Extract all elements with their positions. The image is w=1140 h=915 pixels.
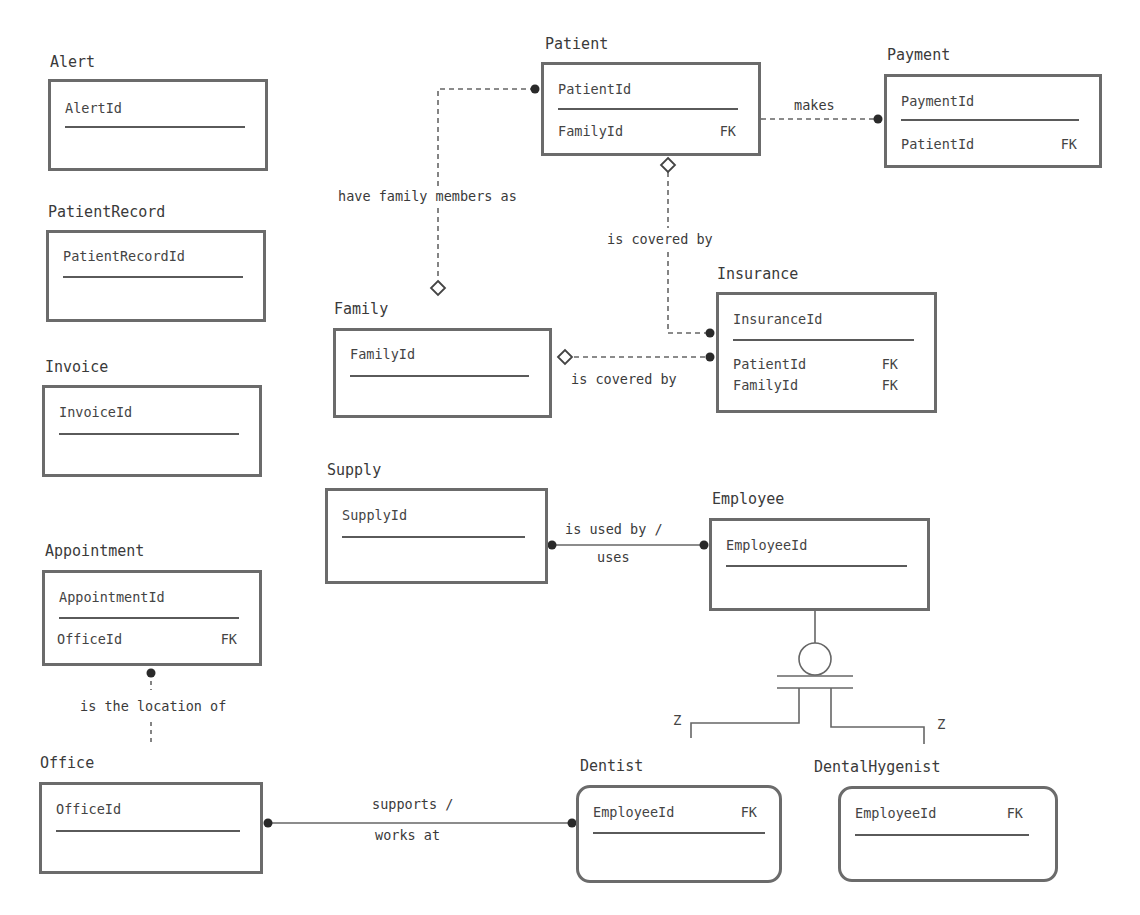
dot-insurance-family xyxy=(706,353,715,362)
pk-divider xyxy=(733,339,914,341)
pk-name: PatientRecordId xyxy=(63,248,185,264)
pk-divider xyxy=(350,375,529,377)
entity-office[interactable]: OfficeId xyxy=(39,782,263,874)
pk-name: EmployeeId xyxy=(855,805,936,821)
entity-appointment[interactable]: AppointmentId OfficeIdFK xyxy=(42,570,262,666)
attribute-familyid: FamilyIdFK xyxy=(558,123,744,139)
pk-field: PatientRecordId xyxy=(63,248,249,264)
pk-field: AppointmentId xyxy=(59,589,245,605)
pk-field: OfficeId xyxy=(56,801,246,817)
pk-name: InvoiceId xyxy=(59,404,132,420)
dot-payment xyxy=(874,115,883,124)
generalization-tag-dentist: Z xyxy=(673,712,681,728)
rel-label-family-members: have family members as xyxy=(338,188,517,204)
fk-badge: FK xyxy=(720,123,736,139)
rel-label-used-by: is used by / xyxy=(565,521,663,537)
generalization-circle xyxy=(799,643,831,675)
entity-title-alert: Alert xyxy=(50,53,95,71)
entity-family[interactable]: FamilyId xyxy=(333,328,552,418)
dot-appointment xyxy=(147,669,156,678)
pk-name: EmployeeId xyxy=(726,537,807,553)
pk-field: PaymentId xyxy=(901,93,1085,109)
pk-divider xyxy=(65,126,245,128)
entity-payment[interactable]: PaymentId PatientIdFK xyxy=(884,74,1102,168)
rel-patient-insurance-line-bottom xyxy=(668,252,710,333)
entity-title-invoice: Invoice xyxy=(45,358,108,376)
pk-field: EmployeeIdFK xyxy=(855,805,1041,821)
pk-divider xyxy=(901,119,1079,121)
entity-patientrecord[interactable]: PatientRecordId xyxy=(46,230,266,322)
pk-divider xyxy=(56,830,240,832)
entity-title-patientrecord: PatientRecord xyxy=(48,203,165,221)
generalization-branch-hygenist xyxy=(831,688,924,744)
dot-office xyxy=(264,819,273,828)
entity-title-patient: Patient xyxy=(545,35,608,53)
entity-supply[interactable]: SupplyId xyxy=(325,488,548,584)
pk-divider xyxy=(59,617,239,619)
rel-label-supports: supports / xyxy=(372,796,453,812)
pk-divider xyxy=(593,832,765,834)
entity-employee[interactable]: EmployeeId xyxy=(709,518,930,611)
pk-divider xyxy=(558,108,738,110)
fk-badge: FK xyxy=(741,804,757,820)
pk-field: AlertId xyxy=(65,100,251,116)
entity-title-office: Office xyxy=(40,754,94,772)
dot-employee xyxy=(700,541,709,550)
dot-insurance-patient xyxy=(706,329,715,338)
entity-dentist[interactable]: EmployeeIdFK xyxy=(576,785,782,883)
pk-name: FamilyId xyxy=(350,346,415,362)
rel-label-location-of: is the location of xyxy=(80,698,226,714)
pk-field: SupplyId xyxy=(342,507,531,523)
rel-label-makes: makes xyxy=(794,97,835,113)
pk-field: InsuranceId xyxy=(733,311,920,327)
entity-patient[interactable]: PatientId FamilyIdFK xyxy=(541,62,761,156)
diamond-patient xyxy=(661,158,675,172)
diamond-family-top xyxy=(431,281,445,295)
entity-title-appointment: Appointment xyxy=(45,542,144,560)
rel-label-works-at: works at xyxy=(375,827,440,843)
entity-title-insurance: Insurance xyxy=(717,265,798,283)
entity-title-payment: Payment xyxy=(887,46,950,64)
entity-title-supply: Supply xyxy=(327,461,381,479)
dot-patient-family xyxy=(531,85,540,94)
attribute-familyid: FamilyIdFK xyxy=(733,377,920,393)
rel-label-family-covered-by: is covered by xyxy=(571,371,677,387)
attribute-patientid: PatientIdFK xyxy=(733,356,920,372)
fk-badge: FK xyxy=(1007,805,1023,821)
pk-name: AppointmentId xyxy=(59,589,165,605)
entity-alert[interactable]: AlertId xyxy=(48,79,268,171)
pk-name: EmployeeId xyxy=(593,804,674,820)
pk-divider xyxy=(59,433,239,435)
attribute-name: PatientId xyxy=(901,136,974,152)
pk-name: AlertId xyxy=(65,100,122,116)
pk-name: InsuranceId xyxy=(733,311,822,327)
attribute-name: FamilyId xyxy=(558,123,623,139)
fk-badge: FK xyxy=(221,631,237,647)
entity-insurance[interactable]: InsuranceId PatientIdFK FamilyIdFK xyxy=(716,292,937,413)
entity-invoice[interactable]: InvoiceId xyxy=(42,385,262,477)
pk-name: PaymentId xyxy=(901,93,974,109)
attribute-name: PatientId xyxy=(733,356,806,372)
entity-title-family: Family xyxy=(334,300,388,318)
fk-badge: FK xyxy=(882,377,898,393)
pk-field: FamilyId xyxy=(350,346,535,362)
fk-badge: FK xyxy=(1061,136,1077,152)
diamond-family-right xyxy=(558,350,572,364)
er-diagram-canvas: Alert AlertId PatientRecord PatientRecor… xyxy=(0,0,1140,915)
pk-field: PatientId xyxy=(558,81,744,97)
rel-label-patient-covered-by: is covered by xyxy=(607,231,713,247)
rel-family-members-line-top xyxy=(438,89,535,186)
pk-field: EmployeeId xyxy=(726,537,913,553)
attribute-patientid: PatientIdFK xyxy=(901,136,1085,152)
pk-divider xyxy=(342,536,525,538)
entity-title-dentist: Dentist xyxy=(580,757,643,775)
pk-field: InvoiceId xyxy=(59,404,245,420)
generalization-tag-hygenist: Z xyxy=(937,716,945,732)
fk-badge: FK xyxy=(882,356,898,372)
pk-divider xyxy=(63,276,243,278)
entity-dentalhygenist[interactable]: EmployeeIdFK xyxy=(838,786,1058,882)
attribute-officeid: OfficeIdFK xyxy=(57,631,245,647)
entity-title-employee: Employee xyxy=(712,490,784,508)
pk-name: PatientId xyxy=(558,81,631,97)
generalization-branch-dentist xyxy=(691,688,799,738)
